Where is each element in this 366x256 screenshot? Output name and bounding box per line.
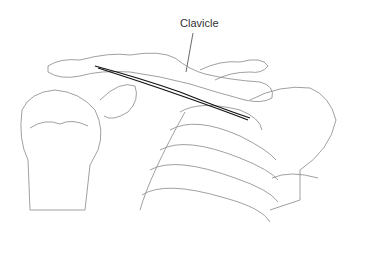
clavicle-bone	[48, 53, 273, 102]
acromion	[100, 85, 136, 119]
rib-2	[170, 124, 276, 160]
humerus-head	[21, 90, 101, 210]
coracoid	[200, 60, 268, 80]
clavicle-highlight	[95, 66, 250, 120]
anatomy-illustration	[0, 0, 366, 256]
rib-4	[150, 165, 278, 202]
rib-5	[142, 188, 270, 222]
rib-3	[160, 145, 278, 180]
